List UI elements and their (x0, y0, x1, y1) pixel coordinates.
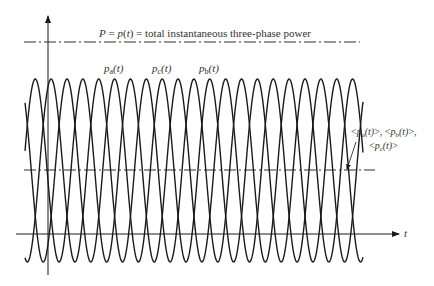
curve-label-pa: pa(t) (103, 62, 124, 76)
x-axis-label: t (404, 227, 408, 239)
wave-pb (25, 79, 363, 262)
wave-pc (25, 79, 363, 262)
average-label-line2: <pc(t)> (369, 140, 398, 153)
curve-label-pb: pb(t) (198, 62, 219, 76)
wave-pa (25, 79, 363, 262)
diagram-svg: t P = p(t) = total instantaneous three-p… (0, 0, 434, 286)
three-phase-power-diagram: t P = p(t) = total instantaneous three-p… (0, 0, 434, 286)
average-pointer-arrow (347, 142, 356, 169)
average-label-line1: <pa(t)>, <pb(t)>, (351, 126, 417, 139)
curve-label-pc: pc(t) (151, 62, 172, 76)
total-power-label: P = p(t) = total instantaneous three-pha… (98, 27, 311, 40)
